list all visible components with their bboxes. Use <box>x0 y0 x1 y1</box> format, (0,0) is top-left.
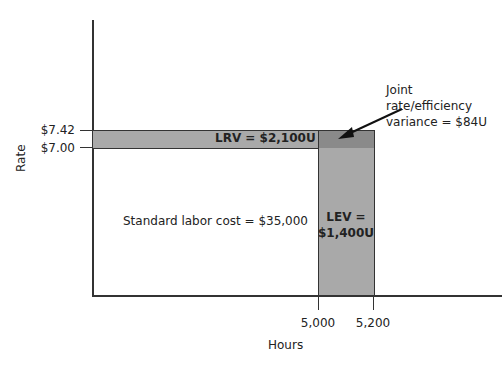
x-axis <box>92 295 502 297</box>
arrow-icon <box>330 105 410 145</box>
y-axis-title: Rate <box>14 144 28 172</box>
xtick-label-5000: 5,000 <box>293 316 343 330</box>
standard-cost-label: Standard labor cost = $35,000 <box>123 214 308 228</box>
xtick-label-5200: 5,200 <box>348 316 398 330</box>
xtick-5000-mark <box>318 296 319 310</box>
xtick-5200-mark <box>373 296 374 310</box>
ytick-label-742: $7.42 <box>15 123 75 137</box>
lrv-label: LRV = $2,100U <box>215 131 316 145</box>
ytick-700-mark <box>80 147 93 148</box>
x-axis-title: Hours <box>268 338 303 352</box>
lev-label: LEV = $1,400U <box>318 209 374 241</box>
lev-label-line1: LEV = <box>318 209 374 225</box>
ytick-742-mark <box>80 130 93 131</box>
lev-label-line2: $1,400U <box>318 225 374 241</box>
y-axis <box>92 20 94 297</box>
